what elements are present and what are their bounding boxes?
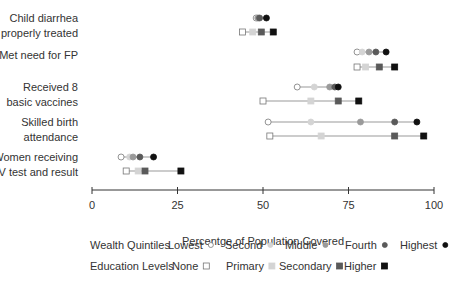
legend-label: Secondary: [279, 260, 332, 272]
category-labels: Child diarrheaproperly treatedMet need f…: [0, 12, 79, 178]
legend-marker: [381, 263, 387, 269]
legend-title: Wealth Quintiles: [90, 239, 170, 251]
legend-marker: [337, 263, 343, 269]
legend-marker: [268, 243, 273, 248]
data-point-primary: [318, 133, 324, 139]
category-label: Received 8: [23, 81, 78, 93]
category-label: properly treated: [1, 27, 78, 39]
dot-range-chart: Child diarrheaproperly treatedMet need f…: [0, 0, 453, 285]
legend-marker: [382, 243, 387, 248]
legend-label: Lowest: [168, 239, 203, 251]
legend-label: Fourth: [345, 239, 377, 251]
category-label: basic vaccines: [6, 96, 78, 108]
legend-label: Primary: [226, 260, 264, 272]
tick-label: 25: [171, 199, 183, 211]
data-point-secondary: [335, 98, 341, 104]
category-label: Women receiving: [0, 151, 78, 163]
data-point-primary: [308, 98, 314, 104]
legend-marker: [269, 263, 275, 269]
data-point-none: [267, 133, 273, 139]
data-point-second: [308, 119, 314, 125]
category-label: Skilled birth: [21, 116, 78, 128]
data-point-lowest: [294, 84, 300, 90]
category-label: Met need for FP: [0, 49, 78, 61]
data-point-second: [311, 84, 317, 90]
category-label: HIV test and result: [0, 166, 78, 178]
data-point-highest: [335, 84, 341, 90]
data-point-higher: [270, 29, 276, 35]
x-axis: 0255075100: [89, 187, 443, 211]
plot-area: [118, 15, 427, 174]
legend: Wealth QuintilesLowestSecondMiddleFourth…: [90, 239, 448, 272]
data-point-lowest: [118, 154, 124, 160]
data-point-higher: [421, 133, 427, 139]
tick-label: 0: [89, 199, 95, 211]
legend-marker: [208, 243, 213, 248]
data-point-fourth: [257, 15, 263, 21]
legend-label: Highest: [400, 239, 437, 251]
data-point-highest: [263, 15, 269, 21]
legend-title: Education Levels: [90, 260, 174, 272]
data-point-none: [239, 29, 245, 35]
legend-label: Second: [225, 239, 262, 251]
category-label: attendance: [24, 131, 78, 143]
data-point-none: [123, 168, 129, 174]
data-point-fourth: [373, 49, 379, 55]
legend-label: Higher: [344, 260, 377, 272]
data-point-primary: [250, 29, 256, 35]
data-point-primary: [363, 64, 369, 70]
data-point-higher: [178, 168, 184, 174]
data-point-middle: [366, 49, 372, 55]
data-point-higher: [392, 64, 398, 70]
data-point-middle: [357, 119, 363, 125]
category-label: Child diarrhea: [10, 12, 79, 24]
tick-label: 50: [257, 199, 269, 211]
data-point-higher: [356, 98, 362, 104]
legend-marker: [203, 263, 209, 269]
data-point-none: [354, 64, 360, 70]
data-point-secondary: [392, 133, 398, 139]
data-point-second: [359, 49, 365, 55]
tick-label: 75: [342, 199, 354, 211]
legend-marker: [443, 243, 448, 248]
data-point-secondary: [258, 29, 264, 35]
data-point-secondary: [376, 64, 382, 70]
data-point-highest: [151, 154, 157, 160]
data-point-middle: [130, 154, 136, 160]
legend-label: Middle: [285, 239, 317, 251]
data-point-secondary: [142, 168, 148, 174]
data-point-fourth: [392, 119, 398, 125]
data-point-highest: [414, 119, 420, 125]
data-point-highest: [383, 49, 389, 55]
data-point-lowest: [265, 119, 271, 125]
data-point-none: [260, 98, 266, 104]
tick-label: 100: [425, 199, 443, 211]
legend-label: None: [172, 260, 198, 272]
data-point-fourth: [137, 154, 143, 160]
data-point-primary: [135, 168, 141, 174]
x-axis-title: Percentge of Population Covered: [182, 235, 344, 247]
legend-marker: [323, 243, 328, 248]
